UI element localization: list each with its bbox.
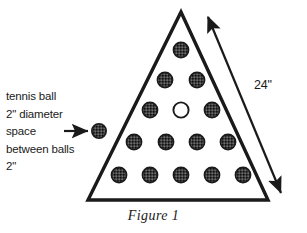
ball-5-4 xyxy=(204,167,219,182)
callout-line-3: space xyxy=(6,123,104,141)
ball-1-1 xyxy=(173,42,188,57)
ball-5-3 xyxy=(173,167,188,182)
ball-2-2 xyxy=(189,72,204,87)
callout-label: tennis ball 2" diameter space between ba… xyxy=(6,88,104,176)
callout-line-1: tennis ball xyxy=(6,88,104,106)
ball-5-1 xyxy=(111,167,126,182)
callout-line-5: 2" xyxy=(6,158,104,176)
ball-2-1 xyxy=(157,72,172,87)
ball-4-4 xyxy=(220,134,235,149)
ball-5-5 xyxy=(235,167,250,182)
figure-page: tennis ball 2" diameter space between ba… xyxy=(0,0,307,233)
ball-4-2 xyxy=(158,134,173,149)
ball-4-3 xyxy=(189,134,204,149)
ball-3-1 xyxy=(142,102,157,117)
callout-line-2: 2" diameter xyxy=(6,106,104,124)
ball-row-3 xyxy=(142,102,219,117)
ball-5-2 xyxy=(142,167,157,182)
ball-3-3 xyxy=(204,102,219,117)
callout-line-4: between balls xyxy=(6,141,104,159)
dimension-label-24in: 24" xyxy=(254,78,272,92)
empty-ball-3-2 xyxy=(173,102,188,117)
ball-4-1 xyxy=(126,134,141,149)
ball-row-1 xyxy=(173,42,188,57)
figure-caption: Figure 1 xyxy=(0,208,307,224)
